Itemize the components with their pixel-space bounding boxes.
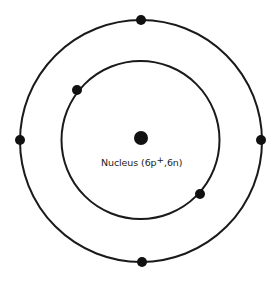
electron-outer-bottom (137, 257, 147, 267)
atom-diagram (0, 0, 279, 286)
nucleus-label-charge: + (157, 155, 164, 165)
electron-outer-right (256, 135, 266, 145)
electron-inner-2 (195, 189, 205, 199)
electron-inner-1 (72, 85, 82, 95)
nucleus (134, 131, 148, 145)
electron-outer-left (15, 135, 25, 145)
nucleus-label: Nucleus (6p+,6n) (101, 154, 185, 168)
nucleus-label-prefix: Nucleus (6p (101, 157, 157, 168)
electron-outer-top (136, 15, 146, 25)
nucleus-label-suffix: ,6n) (164, 157, 182, 168)
